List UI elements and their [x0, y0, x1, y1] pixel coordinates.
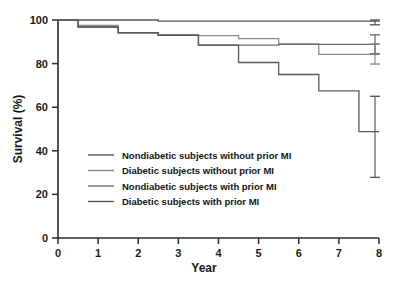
kaplan-meier-survival-plot: 020406080100 012345678 Year Survival (%)… — [0, 0, 397, 286]
legend-label-3: Nondiabetic subjects with prior MI — [122, 181, 277, 192]
survival-chart-figure: 020406080100 012345678 Year Survival (%)… — [0, 0, 397, 286]
y-tick-label: 40 — [36, 145, 48, 157]
x-tick-label: 0 — [55, 247, 61, 259]
y-tick-label: 60 — [36, 101, 48, 113]
x-tick-label: 4 — [215, 247, 222, 259]
y-axis-title: Survival (%) — [11, 95, 25, 164]
x-tick-label: 2 — [135, 247, 141, 259]
legend-label-1: Nondiabetic subjects without prior MI — [122, 150, 291, 161]
x-tick-label: 5 — [256, 247, 262, 259]
x-tick-label: 3 — [175, 247, 181, 259]
x-axis-title: Year — [191, 261, 217, 275]
y-tick-label: 20 — [36, 188, 48, 200]
x-tick-label: 1 — [95, 247, 101, 259]
x-tick-label: 8 — [376, 247, 382, 259]
y-tick-label: 80 — [36, 58, 48, 70]
y-tick-label: 0 — [42, 232, 48, 244]
legend-label-2: Diabetic subjects without prior MI — [122, 165, 274, 176]
legend-label-4: Diabetic subjects with prior MI — [122, 196, 259, 207]
x-tick-label: 7 — [336, 247, 342, 259]
y-tick-label: 100 — [30, 14, 48, 26]
x-tick-label: 6 — [296, 247, 302, 259]
